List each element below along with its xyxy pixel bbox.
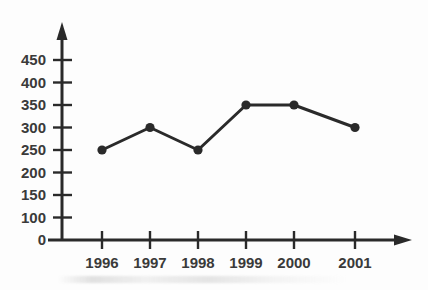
data-point-1997: [145, 123, 154, 132]
y-tick-label-200: 200: [21, 164, 46, 181]
y-axis-arrow-icon: [57, 22, 68, 40]
x-tick-label-2001: 2001: [338, 254, 371, 271]
x-tick-label-1999: 1999: [229, 254, 262, 271]
y-tick-label-250: 250: [21, 141, 46, 158]
y-tick-label-150: 150: [21, 186, 46, 203]
x-tick-label-1998: 1998: [181, 254, 214, 271]
series-marker-group: [97, 100, 359, 154]
y-tick-label-300: 300: [21, 119, 46, 136]
y-axis: [57, 22, 68, 240]
x-tick-label-1996: 1996: [85, 254, 118, 271]
data-point-2000: [289, 100, 298, 109]
data-point-2001: [350, 123, 359, 132]
y-tick-group: 450 400 350 300 250 200 150 100 0: [21, 51, 72, 248]
y-tick-label-350: 350: [21, 96, 46, 113]
x-tick-label-2000: 2000: [277, 254, 310, 271]
y-tick-label-400: 400: [21, 74, 46, 91]
y-tick-label-450: 450: [21, 51, 46, 68]
data-point-1998: [193, 145, 202, 154]
scan-artifact: [58, 276, 348, 283]
y-tick-label-0: 0: [38, 231, 46, 248]
x-tick-group: 1996 1997 1998 1999 2000 2001: [85, 231, 371, 271]
data-point-1996: [97, 145, 106, 154]
x-axis-arrow-icon: [394, 235, 412, 246]
y-tick-label-100: 100: [21, 209, 46, 226]
x-tick-label-1997: 1997: [133, 254, 166, 271]
chart-canvas: 450 400 350 300 250 200 150 100 0 1996 1…: [0, 0, 428, 290]
data-point-1999: [241, 100, 250, 109]
line-chart: 450 400 350 300 250 200 150 100 0 1996 1…: [0, 0, 428, 290]
series-line: [102, 105, 355, 150]
data-series: [97, 100, 359, 154]
